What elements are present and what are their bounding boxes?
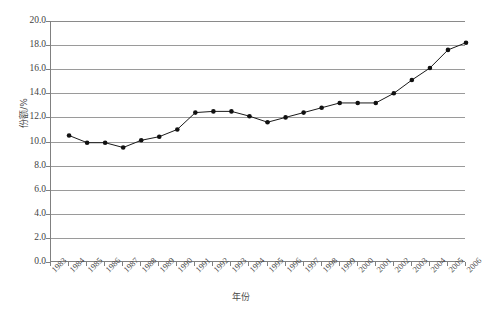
data-point-marker bbox=[211, 109, 216, 114]
y-axis-tick-label: 0.0 bbox=[2, 257, 46, 267]
data-point-marker bbox=[337, 101, 342, 106]
plot-area bbox=[50, 21, 465, 262]
data-point-marker bbox=[121, 145, 126, 150]
y-axis-tick-label: 6.0 bbox=[2, 185, 46, 195]
x-axis-title: 年份 bbox=[0, 292, 481, 302]
data-point-marker bbox=[85, 140, 90, 145]
y-axis-tick-label: 4.0 bbox=[2, 209, 46, 219]
data-point-marker bbox=[373, 101, 378, 106]
y-axis-tick-label: 2.0 bbox=[2, 233, 46, 243]
data-point-marker bbox=[247, 114, 252, 119]
x-axis-tick-label: 2006 bbox=[465, 256, 483, 274]
data-point-marker bbox=[283, 115, 288, 120]
data-point-marker bbox=[319, 105, 324, 110]
y-axis-tick-label: 10.0 bbox=[2, 137, 46, 147]
series-svg bbox=[51, 21, 466, 262]
data-point-marker bbox=[392, 91, 397, 96]
data-point-marker bbox=[157, 134, 162, 139]
data-point-marker bbox=[175, 127, 180, 132]
data-point-marker bbox=[355, 101, 360, 106]
data-point-marker bbox=[301, 110, 306, 115]
data-point-marker bbox=[464, 40, 469, 45]
data-point-marker bbox=[67, 133, 72, 138]
data-point-marker bbox=[428, 66, 433, 71]
data-point-marker bbox=[265, 120, 270, 125]
y-axis-tick-label: 8.0 bbox=[2, 161, 46, 171]
y-axis-tick-label: 18.0 bbox=[2, 40, 46, 50]
y-axis-tick-label: 14.0 bbox=[2, 89, 46, 99]
data-point-marker bbox=[103, 140, 108, 145]
data-point-marker bbox=[139, 138, 144, 143]
series-line bbox=[69, 43, 466, 148]
y-axis-tick-label: 16.0 bbox=[2, 64, 46, 74]
data-point-marker bbox=[446, 48, 451, 53]
y-axis-tick-label: 12.0 bbox=[2, 113, 46, 123]
y-axis-tick-labels: 0.02.04.06.08.010.012.014.016.018.020.0 bbox=[0, 21, 46, 262]
y-axis-tick-label: 20.0 bbox=[2, 16, 46, 26]
data-point-marker bbox=[193, 110, 198, 115]
data-point-marker bbox=[229, 109, 234, 114]
data-point-marker bbox=[410, 78, 415, 83]
